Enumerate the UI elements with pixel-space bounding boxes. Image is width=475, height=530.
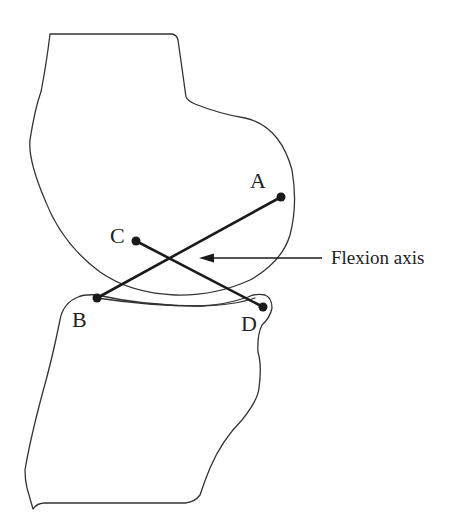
point-c [132,237,141,246]
point-d [259,303,268,312]
knee-diagram: A B C D Flexion axis [0,0,475,530]
arrowhead-icon [199,254,214,263]
label-b: B [72,307,87,332]
label-c: C [110,223,125,248]
flexion-axis-label: Flexion axis [331,247,424,268]
label-a: A [250,168,266,193]
label-d: D [241,311,257,336]
point-b [93,294,102,303]
ligament-c-d [136,241,263,307]
tibia-outline [25,294,272,509]
point-a [277,193,286,202]
